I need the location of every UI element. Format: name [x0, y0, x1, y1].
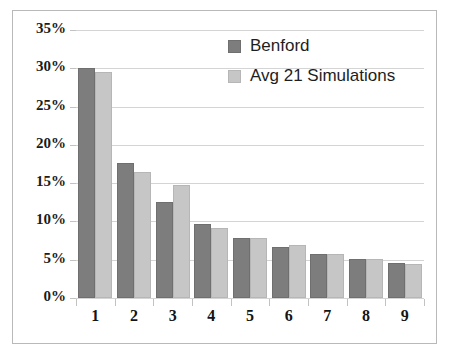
bar-4-benford [194, 224, 211, 298]
legend-swatch-benford-icon [228, 40, 241, 53]
legend-label-benford: Benford [250, 36, 310, 56]
gridline [76, 298, 424, 299]
bar-4-avg-simulations [211, 228, 228, 298]
y-axis-tick-label: 25% [36, 97, 66, 114]
bar-9-avg-simulations [405, 264, 422, 298]
bar-2-avg-simulations [134, 172, 151, 298]
y-axis-tick-labels: 0%5%10%15%20%25%30%35% [0, 0, 66, 355]
legend-entry-benford: Benford [228, 31, 395, 61]
x-axis-tick-mark [153, 299, 154, 306]
x-axis-tick-label: 4 [191, 307, 231, 325]
legend-swatch-avg-simulations-icon [228, 70, 241, 83]
y-axis-tick-mark [70, 183, 76, 184]
y-axis-tick-mark [70, 260, 76, 261]
y-axis-tick-label: 0% [44, 288, 67, 305]
legend-label-avg-simulations: Avg 21 Simulations [250, 66, 395, 86]
x-axis-tick-mark [308, 299, 309, 306]
x-axis-tick-label: 9 [385, 307, 425, 325]
y-axis-tick-label: 15% [36, 173, 66, 190]
bar-9-benford [388, 263, 405, 298]
x-axis-tick-mark [231, 299, 232, 306]
bar-6-benford [272, 247, 289, 298]
y-axis-tick-label: 10% [36, 211, 66, 228]
x-axis-tick-label: 2 [114, 307, 154, 325]
x-axis-tick-mark [424, 299, 425, 306]
x-axis-tick-mark [347, 299, 348, 306]
x-axis-tick-label: 7 [307, 307, 347, 325]
x-axis-tick-mark [115, 299, 116, 306]
bar-8-avg-simulations [366, 259, 383, 298]
bar-7-avg-simulations [327, 254, 344, 298]
x-axis-tick-mark [192, 299, 193, 306]
y-axis-tick-mark [70, 68, 76, 69]
bar-8-benford [349, 259, 366, 298]
chart-figure: 0%5%10%15%20%25%30%35% 123456789 Benford… [0, 0, 449, 355]
x-axis-tick-mark [76, 299, 77, 306]
y-axis-tick-mark [70, 30, 76, 31]
y-axis-tick-label: 30% [36, 58, 66, 75]
y-axis-tick-label: 35% [36, 20, 66, 37]
bar-5-benford [233, 238, 250, 298]
bar-7-benford [310, 254, 327, 298]
x-axis-tick-mark [269, 299, 270, 306]
y-axis-tick-mark [70, 145, 76, 146]
y-axis-tick-label: 5% [44, 250, 67, 267]
x-axis-tick-label: 3 [153, 307, 193, 325]
x-axis-tick-mark [385, 299, 386, 306]
bar-2-benford [117, 163, 134, 298]
bar-3-avg-simulations [173, 185, 190, 298]
x-axis-tick-label: 8 [346, 307, 386, 325]
bar-1-avg-simulations [95, 72, 112, 298]
x-axis-tick-label: 1 [75, 307, 115, 325]
y-axis-tick-mark [70, 107, 76, 108]
bar-5-avg-simulations [250, 238, 267, 298]
chart-legend: Benford Avg 21 Simulations [228, 31, 395, 91]
legend-entry-avg-simulations: Avg 21 Simulations [228, 61, 395, 91]
bar-6-avg-simulations [289, 245, 306, 298]
bar-3-benford [156, 202, 173, 298]
y-axis-tick-label: 20% [36, 135, 66, 152]
y-axis-tick-mark [70, 221, 76, 222]
x-axis-tick-label: 6 [269, 307, 309, 325]
gridline [76, 107, 424, 108]
bar-1-benford [78, 68, 95, 298]
x-axis-tick-label: 5 [230, 307, 270, 325]
gridline [76, 145, 424, 146]
